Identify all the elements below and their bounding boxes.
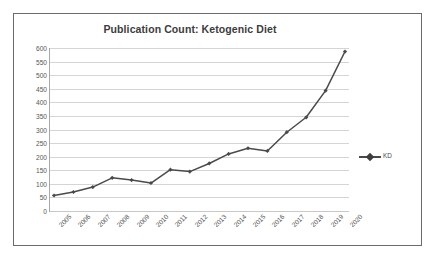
x-tick-2005: 2005: [57, 213, 72, 228]
y-tick-350: 350: [23, 112, 47, 119]
data-point-2009: [130, 178, 134, 182]
x-axis-tick-labels: 2005200620072008200920102011201220132014…: [50, 213, 349, 257]
x-tick-2008: 2008: [115, 213, 130, 228]
x-tick-2014: 2014: [232, 213, 247, 228]
y-tick-600: 600: [23, 45, 47, 52]
y-tick-250: 250: [23, 140, 47, 147]
x-tick-2012: 2012: [193, 213, 208, 228]
y-tick-200: 200: [23, 153, 47, 160]
legend-marker-icon: [359, 152, 381, 161]
x-tick-2006: 2006: [77, 213, 92, 228]
data-point-2012: [188, 170, 192, 174]
y-tick-550: 550: [23, 58, 47, 65]
y-tick-150: 150: [23, 167, 47, 174]
x-tick-2018: 2018: [309, 213, 324, 228]
x-tick-2007: 2007: [96, 213, 111, 228]
x-tick-2015: 2015: [251, 213, 266, 228]
series-line-kd: [54, 52, 345, 196]
y-tick-0: 0: [23, 208, 47, 215]
chart-legend: KD: [359, 152, 392, 161]
y-tick-500: 500: [23, 72, 47, 79]
y-tick-50: 50: [23, 194, 47, 201]
x-tick-2019: 2019: [329, 213, 344, 228]
gridline-0: [50, 211, 349, 212]
x-tick-2009: 2009: [135, 213, 150, 228]
x-tick-2013: 2013: [212, 213, 227, 228]
legend-item-label: KD: [383, 153, 392, 159]
data-point-2006: [71, 190, 75, 194]
x-tick-2016: 2016: [271, 213, 286, 228]
y-tick-400: 400: [23, 99, 47, 106]
data-point-2005: [52, 193, 56, 197]
x-tick-2017: 2017: [290, 213, 305, 228]
plot-area: [50, 48, 349, 211]
x-tick-2011: 2011: [174, 213, 189, 228]
y-axis-tick-labels: 600550500450400350300250200150100500: [22, 48, 47, 211]
chart-frame: Publication Count: Ketogenic Diet 600550…: [13, 13, 422, 246]
series-kd: [50, 48, 349, 211]
x-tick-2020: 2020: [348, 213, 363, 228]
chart-title: Publication Count: Ketogenic Diet: [14, 23, 366, 35]
data-point-2015: [246, 146, 250, 150]
x-tick-2010: 2010: [154, 213, 169, 228]
y-tick-300: 300: [23, 126, 47, 133]
y-tick-100: 100: [23, 180, 47, 187]
y-tick-450: 450: [23, 85, 47, 92]
